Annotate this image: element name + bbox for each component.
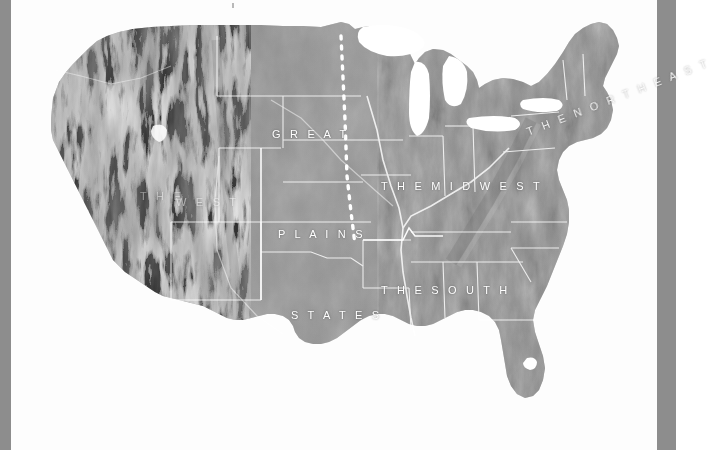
us-relief-map-svg	[11, 0, 657, 450]
top-edge-speck	[232, 3, 234, 8]
lake-ontario-shape	[520, 98, 563, 112]
right-edge-bar	[657, 0, 676, 450]
relief-map-figure	[11, 0, 657, 450]
lake-michigan-shape	[409, 62, 430, 136]
left-edge-bar	[0, 0, 11, 450]
